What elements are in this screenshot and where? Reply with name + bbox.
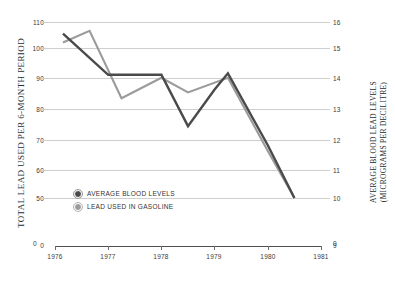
xtick-mark-1981 [321,246,322,250]
xtick-mark-1976 [55,246,56,250]
x-axis-origin-right-label: 0 [333,240,337,247]
xtick-mark-1977 [108,246,109,250]
legend-item-average-blood-levels[interactable]: AVERAGE BLOOD LEVELS [74,188,175,199]
xtick-label-1976: 1976 [40,253,70,260]
xtick-label-1979: 1979 [199,253,229,260]
x-axis-origin-left-label: 0 [33,240,37,247]
xtick-label-1978: 1978 [146,253,176,260]
chart-legend: AVERAGE BLOOD LEVELS LEAD USED IN GASOLI… [74,188,175,214]
xtick-mark-1979 [214,246,215,250]
xtick-mark-1978 [161,246,162,250]
plot-lines [0,0,395,281]
lead-levels-chart: TOTAL LEAD USED PER 6-MONTH PERIOD AVERA… [0,0,395,281]
legend-marker-icon-average-blood-levels [74,190,82,198]
xtick-label-1980: 1980 [253,253,283,260]
series-line-average-blood-levels [63,34,294,198]
x-axis-line [55,246,321,247]
xtick-mark-1980 [268,246,269,250]
legend-marker-icon-lead-used-in-gasoline [74,203,82,211]
xtick-label-1977: 1977 [93,253,123,260]
legend-label-lead-used-in-gasoline: LEAD USED IN GASOLINE [87,203,174,210]
legend-item-lead-used-in-gasoline[interactable]: LEAD USED IN GASOLINE [74,201,175,212]
series-line-lead-used-in-gasoline [63,31,294,198]
legend-label-average-blood-levels: AVERAGE BLOOD LEVELS [87,190,175,197]
xtick-label-1981: 1981 [306,253,336,260]
